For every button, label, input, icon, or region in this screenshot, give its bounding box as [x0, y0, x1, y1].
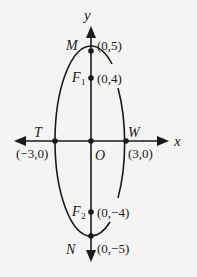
point-t [52, 138, 58, 144]
point-f2-label: F [71, 204, 81, 219]
point-f2-subscript: 2 [81, 211, 86, 221]
x-axis-label: x [173, 133, 181, 149]
point-m [88, 48, 94, 54]
x-axis-left-arrow-icon [14, 136, 26, 146]
point-f2 [88, 209, 94, 215]
y-axis-down-arrow-icon [86, 250, 96, 262]
point-m-coord: (0,5) [97, 38, 122, 53]
point-f1-label: F [71, 70, 81, 85]
ellipse-diagram: y x O M (0,5) F 1 (0,4) T (−3,0) W (3,0)… [0, 0, 197, 277]
origin-label: O [95, 148, 105, 163]
point-m-label: M [65, 38, 79, 53]
point-w-coord: (3,0) [128, 146, 153, 161]
point-f1 [88, 75, 94, 81]
point-f1-subscript: 1 [81, 77, 86, 87]
point-f2-coord: (0,−4) [97, 205, 129, 220]
diagram-svg: y x O M (0,5) F 1 (0,4) T (−3,0) W (3,0)… [0, 0, 197, 277]
y-axis-label: y [82, 7, 91, 23]
point-t-label: T [34, 125, 43, 140]
point-n-label: N [65, 242, 76, 257]
point-t-coord: (−3,0) [16, 146, 48, 161]
point-n [88, 233, 94, 239]
point-origin [88, 138, 94, 144]
point-n-coord: (0,−5) [97, 241, 129, 256]
y-axis-up-arrow-icon [86, 26, 96, 38]
x-axis-right-arrow-icon [157, 136, 169, 146]
point-f1-coord: (0,4) [97, 71, 122, 86]
point-w-label: W [128, 125, 141, 140]
